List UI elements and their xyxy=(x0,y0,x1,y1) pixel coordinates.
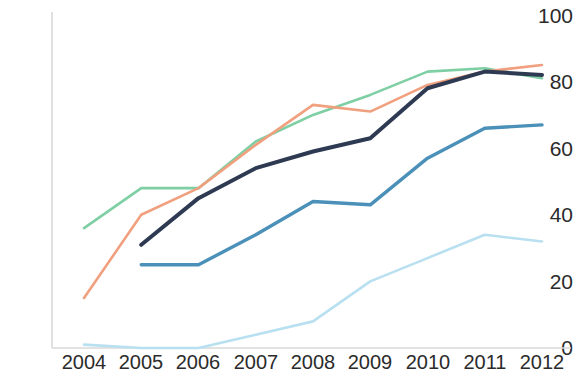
plot-area xyxy=(0,0,573,373)
line-series-green xyxy=(84,68,542,228)
series-group xyxy=(84,65,542,348)
line-series-navy xyxy=(141,72,542,245)
line-chart: 100 80 60 40 20 0 2004 2005 2006 2007 20… xyxy=(0,0,573,373)
line-series-lightblue xyxy=(84,235,542,348)
